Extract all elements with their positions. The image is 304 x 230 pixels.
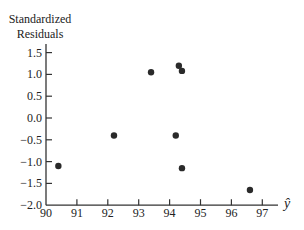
x-tick-label: 90	[40, 206, 52, 220]
data-point	[179, 165, 185, 171]
data-point	[148, 69, 154, 75]
y-tick-label: 0.5	[27, 89, 42, 103]
x-tick-label: 97	[256, 206, 268, 220]
y-tick-label: 0.0	[27, 111, 42, 125]
x-tick-label: 93	[133, 206, 145, 220]
data-point	[173, 132, 179, 138]
data-point	[179, 68, 185, 74]
x-tick-label: 94	[164, 206, 176, 220]
data-point	[111, 132, 117, 138]
data-point	[247, 187, 253, 193]
y-tick-label: −1.0	[20, 155, 42, 169]
y-tick-label: 1.5	[27, 46, 42, 60]
x-tick-label: 95	[195, 206, 207, 220]
axes: 1.51.00.50.0−0.5−1.0−1.5−2.0909192939495…	[20, 44, 291, 220]
x-axis-label: ŷ	[282, 196, 291, 211]
y-tick-label: −1.5	[20, 176, 42, 190]
x-tick-label: 91	[71, 206, 83, 220]
x-tick-label: 96	[225, 206, 237, 220]
data-points	[55, 62, 253, 193]
x-tick-label: 92	[102, 206, 114, 220]
data-point	[55, 163, 61, 169]
y-tick-label: −0.5	[20, 133, 42, 147]
scatter-plot: 1.51.00.50.0−0.5−1.0−1.5−2.0909192939495…	[0, 0, 304, 230]
y-tick-label: −2.0	[20, 198, 42, 212]
y-tick-label: 1.0	[27, 67, 42, 81]
